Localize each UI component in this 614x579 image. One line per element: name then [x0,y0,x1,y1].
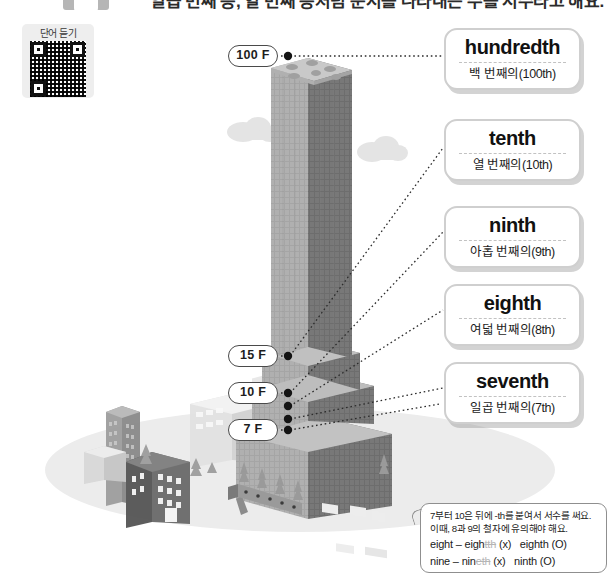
word-card-hundredth[interactable]: hundredth 백 번째의(100th) [444,28,581,90]
note-ex1-dash: – [456,538,462,550]
word-card-divider [459,240,566,241]
note-ex2-dash: – [453,555,459,567]
word-card-korean: 백 번째의(100th) [451,66,574,83]
word-card-english: ninth [451,214,574,237]
word-card-divider [459,62,566,63]
note-ex1-base: eight [430,538,453,550]
floor-marker-100f: 100 F [228,45,278,67]
cloud-right [357,136,408,162]
tower-shaft-right [308,58,352,358]
note-ex2-right-mark: (O) [540,555,555,567]
note-ex1-wrong-suffix: tth [485,538,497,550]
note-ex1-wrong-stem: eigh [465,538,485,550]
note-line-2: 이때, 8과 9의 철자에 유의해야 해요. [430,523,598,536]
note-ex1-right: eighth [520,538,549,550]
floor-marker-7f: 7 F [228,419,278,441]
word-card-divider [459,396,566,397]
word-card-tenth[interactable]: tenth 열 번째의(10th) [444,119,581,181]
note-ex2-base: nine [430,555,450,567]
floor-marker-10f: 10 F [228,382,278,404]
word-card-english: tenth [451,127,574,150]
note-line-1: 7부터 10은 뒤에 -th를 붙여서 서수를 써요. [430,510,598,523]
word-card-korean: 일곱 번째의(7th) [451,400,574,417]
note-ex2-wrong-suffix: eth [476,555,491,567]
word-card-english: seventh [451,370,574,393]
word-card-korean: 아홉 번째의(9th) [451,244,574,261]
note-ex1-wrong-mark: (x) [499,538,511,550]
word-card-korean: 여덟 번째의(8th) [451,322,574,339]
note-ex2-wrong-stem: nin [462,555,476,567]
worksheet-page: 일곱 번째 층, 열 번째 층처럼 순서를 나타내는 수를 서수라고 해요. 단… [0,0,614,579]
note-ex1-right-mark: (O) [551,538,566,550]
floor-marker-15f: 15 F [228,345,278,367]
grammar-note-box: 7부터 10은 뒤에 -th를 붙여서 서수를 써요. 이때, 8과 9의 철자… [420,503,607,573]
note-ex2-wrong-mark: (x) [493,555,505,567]
word-card-ninth[interactable]: ninth 아홉 번째의(9th) [444,206,581,268]
word-card-seventh[interactable]: seventh 일곱 번째의(7th) [444,362,581,424]
word-card-divider [459,153,566,154]
word-card-divider [459,318,566,319]
note-example-nine: nine – nineth (x) ninth (O) [430,554,598,569]
word-card-english: eighth [451,292,574,315]
tower-shaft-left [271,58,308,358]
word-card-eighth[interactable]: eighth 여덟 번째의(8th) [444,284,581,346]
note-example-eight: eight – eightth (x) eighth (O) [430,537,598,552]
word-card-english: hundredth [451,36,574,59]
word-card-korean: 열 번째의(10th) [451,157,574,174]
note-ex2-right: ninth [514,555,537,567]
